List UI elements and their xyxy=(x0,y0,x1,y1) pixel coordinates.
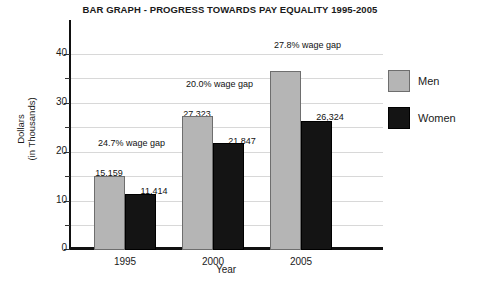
legend-label-women: Women xyxy=(418,112,456,124)
bar-women-1995 xyxy=(125,194,156,250)
y-axis-title: Dollars (in Thousands) xyxy=(15,69,37,189)
chart-title: BAR GRAPH - PROGRESS TOWARDS PAY EQUALIT… xyxy=(70,4,390,15)
bar-women-2000 xyxy=(213,143,244,250)
legend-swatch-men xyxy=(388,70,410,92)
bar-men-2005 xyxy=(270,71,301,250)
x-axis-title: Year xyxy=(69,264,383,275)
legend-swatch-women xyxy=(388,107,410,129)
y-tick-35 xyxy=(65,78,70,79)
legend-label-men: Men xyxy=(418,75,439,87)
y-tick-label-0: 0 xyxy=(41,242,67,253)
legend: Men Women xyxy=(388,70,480,144)
legend-item-women: Women xyxy=(388,107,480,129)
y-tick-15 xyxy=(65,176,70,177)
y-tick-label-40: 40 xyxy=(41,47,67,58)
y-axis-title-line1: Dollars xyxy=(15,69,26,189)
y-tick-5 xyxy=(65,225,70,226)
gridline-30 xyxy=(71,103,383,104)
gap-annotation-2000: 20.0% wage gap xyxy=(162,79,277,89)
y-axis-title-line2: (in Thousands) xyxy=(26,69,37,189)
gap-annotation-2005: 27.8% wage gap xyxy=(250,40,365,50)
gridline-25 xyxy=(71,127,383,128)
bar-women-2005 xyxy=(301,121,332,250)
y-tick-label-30: 30 xyxy=(41,96,67,107)
bar-men-1995 xyxy=(94,176,125,250)
plot-area: 40 30 20 10 0 24.7% wage gap 15,159 11,4… xyxy=(69,20,383,250)
y-tick-label-10: 10 xyxy=(41,194,67,205)
y-tick-25 xyxy=(65,127,70,128)
gap-annotation-1995: 24.7% wage gap xyxy=(74,138,189,148)
bar-men-2000 xyxy=(182,116,213,250)
y-tick-label-20: 20 xyxy=(41,145,67,156)
bar-chart: BAR GRAPH - PROGRESS TOWARDS PAY EQUALIT… xyxy=(0,0,482,299)
legend-item-men: Men xyxy=(388,70,480,92)
gridline-40 xyxy=(71,54,383,55)
